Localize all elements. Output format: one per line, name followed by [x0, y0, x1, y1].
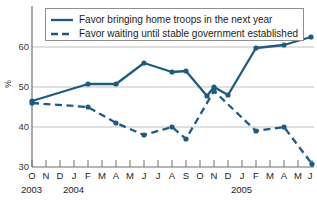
legend: Favor bringing home troops in the next y…: [45, 8, 304, 41]
x-tick-label: J: [67, 170, 81, 181]
year-label-2003: 2003: [21, 184, 42, 195]
x-tick-label: D: [221, 170, 235, 181]
x-tick-label: J: [303, 170, 317, 181]
line-chart: % 60 50 40 30 O N D J F M A M J J A S O …: [0, 0, 317, 201]
x-tick-label: M: [95, 170, 109, 181]
x-tick-label: A: [109, 170, 123, 181]
series-favor-bringing-home-troops: [29, 34, 313, 103]
year-label-2005: 2005: [231, 184, 252, 195]
x-tick-label: A: [277, 170, 291, 181]
x-tick-label: N: [207, 170, 221, 181]
x-tick-label: A: [165, 170, 179, 181]
legend-solid-line-icon: [51, 15, 73, 25]
legend-item-favor-waiting: Favor waiting until stable government es…: [51, 27, 298, 40]
y-tick-label: 60: [5, 42, 29, 52]
y-tick-label: 40: [5, 122, 29, 132]
x-tick-label: J: [151, 170, 165, 181]
x-tick-label: D: [53, 170, 67, 181]
x-tick-label: M: [123, 170, 137, 181]
x-tick-label: S: [179, 170, 193, 181]
y-tick-label: 50: [5, 82, 29, 92]
year-label-2004: 2004: [63, 184, 84, 195]
x-tick-label: O: [193, 170, 207, 181]
legend-dashed-line-icon: [51, 29, 73, 39]
x-tick-label: F: [81, 170, 95, 181]
x-tick-marks: [32, 160, 312, 167]
x-tick-label: M: [263, 170, 277, 181]
legend-label: Favor waiting until stable government es…: [79, 28, 298, 39]
x-tick-label: F: [249, 170, 263, 181]
x-tick-label: O: [25, 170, 39, 181]
legend-label: Favor bringing home troops in the next y…: [79, 14, 272, 25]
legend-item-favor-bringing-home-troops: Favor bringing home troops in the next y…: [51, 13, 298, 26]
x-tick-label: J: [235, 170, 249, 181]
x-tick-label: N: [39, 170, 53, 181]
x-tick-label: J: [137, 170, 151, 181]
